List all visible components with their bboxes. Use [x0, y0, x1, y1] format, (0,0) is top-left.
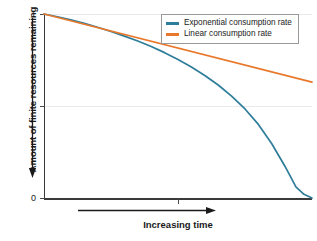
chart-legend: Exponential consumption rate Linear cons… — [161, 14, 299, 44]
legend-label-exponential: Exponential consumption rate — [184, 19, 292, 27]
legend-label-linear: Linear consumption rate — [184, 30, 272, 38]
y-tick-0: 0 — [40, 198, 45, 199]
x-axis-direction-arrow — [78, 206, 216, 215]
y-tick-label-0: 0 — [31, 194, 36, 203]
chart-figure: Amount of finite resources remaining 1 0… — [0, 0, 317, 241]
x-tick-mid — [178, 199, 179, 204]
y-axis-direction-arrow — [28, 18, 37, 178]
legend-item-linear: Linear consumption rate — [166, 29, 292, 40]
legend-swatch-linear — [166, 33, 179, 35]
y-tick-label-1: 1 — [31, 10, 36, 19]
legend-swatch-exponential — [166, 22, 179, 24]
x-axis-label: Increasing time — [44, 219, 312, 230]
y-axis-label-block: Amount of finite resources remaining — [0, 0, 44, 205]
legend-item-exponential: Exponential consumption rate — [166, 18, 292, 29]
